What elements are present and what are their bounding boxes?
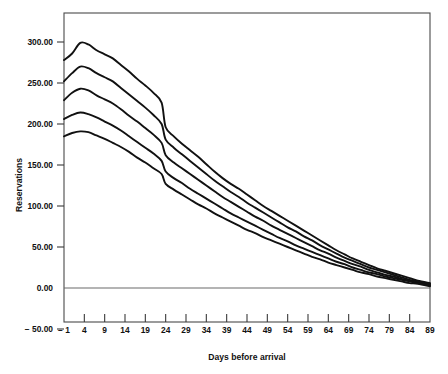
series-lines: [64, 42, 430, 286]
x-tick-label: 49: [263, 325, 273, 335]
x-axis-tick-labels: − 14914192429343944495459646974798489: [58, 325, 435, 335]
x-tick-label: 4: [82, 325, 87, 335]
x-tick-label: 89: [425, 325, 435, 335]
x-tick-label: 69: [344, 325, 354, 335]
y-tick-label: 300.00: [27, 37, 53, 47]
x-tick-label: 9: [102, 325, 107, 335]
x-tick-label: 39: [222, 325, 232, 335]
y-tick-label: 100.00: [27, 201, 53, 211]
x-tick-label: 79: [385, 325, 395, 335]
y-tick-label: 200.00: [27, 119, 53, 129]
y-tick-label: 50.00: [32, 242, 53, 252]
x-axis-ticks: [84, 314, 409, 322]
x-tick-label: 59: [303, 325, 313, 335]
series-line: [64, 42, 430, 283]
x-tick-label: 74: [364, 325, 374, 335]
x-tick-label: 19: [141, 325, 151, 335]
y-tick-label: 150.00: [27, 160, 53, 170]
series-line: [64, 131, 430, 286]
y-axis-title: Reservations: [14, 158, 24, 212]
x-tick-label: 24: [161, 325, 171, 335]
x-tick-label: 14: [120, 325, 130, 335]
x-tick-label: 44: [242, 325, 252, 335]
x-tick-label: 29: [181, 325, 191, 335]
y-tick-label: 0.00: [37, 283, 54, 293]
x-tick-label: 84: [405, 325, 415, 335]
y-axis-tick-labels: 300.00250.00200.00150.00100.0050.000.00−…: [25, 37, 54, 334]
x-tick-label: 54: [283, 325, 293, 335]
x-axis-title: Days before arrival: [208, 352, 285, 362]
x-tick-label: − 1: [58, 325, 70, 335]
chart-container: 300.00250.00200.00150.00100.0050.000.00−…: [0, 0, 448, 374]
reservations-line-chart: 300.00250.00200.00150.00100.0050.000.00−…: [0, 0, 448, 374]
series-line: [64, 113, 430, 286]
series-line: [64, 89, 430, 285]
x-tick-label: 64: [324, 325, 334, 335]
y-tick-label: 250.00: [27, 78, 53, 88]
series-line: [64, 66, 430, 284]
y-tick-label: − 50.00: [25, 324, 54, 334]
y-axis-ticks: [57, 42, 64, 329]
x-tick-label: 34: [202, 325, 212, 335]
